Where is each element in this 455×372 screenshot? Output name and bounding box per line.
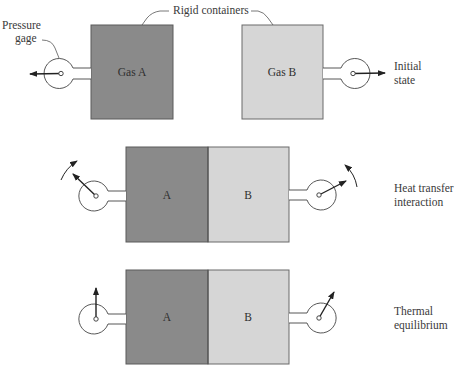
container-b-label: B xyxy=(244,311,252,323)
rotation-arc-icon xyxy=(61,161,77,180)
pressure-gage-label-line2: gage xyxy=(15,32,37,45)
diagram-canvas: Gas A Gas B A B xyxy=(0,0,455,372)
initial-state-label-line1: Initial xyxy=(394,60,421,73)
pressure-gage-icon xyxy=(61,161,126,211)
row-initial-state: Gas A Gas B xyxy=(30,11,385,119)
pressure-gage-icon xyxy=(289,292,336,333)
container-b-label: B xyxy=(244,189,252,201)
pressure-gage-icon xyxy=(289,165,357,210)
pressure-gage-icon xyxy=(79,288,126,334)
heat-transfer-label-line1: Heat transfer xyxy=(394,182,454,195)
thermal-equilibrium-label-line2: equilibrium xyxy=(394,319,448,332)
initial-state-label-line2: state xyxy=(394,74,415,87)
leader-line xyxy=(42,40,59,58)
container-gas-b-label: Gas B xyxy=(268,66,297,78)
container-gas-a-label: Gas A xyxy=(118,66,147,78)
pressure-gage-label-line1: Pressure xyxy=(2,19,41,32)
leader-line xyxy=(142,11,169,25)
leader-line xyxy=(251,11,273,25)
rigid-containers-label: Rigid containers xyxy=(173,4,249,17)
pressure-gage-icon xyxy=(323,59,385,89)
row-thermal-equilibrium: A B xyxy=(79,270,336,364)
heat-transfer-label-line2: interaction xyxy=(394,196,443,209)
thermal-equilibrium-label-line1: Thermal xyxy=(394,305,433,318)
pressure-gage-icon xyxy=(30,59,91,89)
row-heat-transfer: A B xyxy=(61,147,357,242)
container-a-label: A xyxy=(163,311,172,323)
container-a-label: A xyxy=(163,189,172,201)
rotation-arc-icon xyxy=(345,165,357,187)
